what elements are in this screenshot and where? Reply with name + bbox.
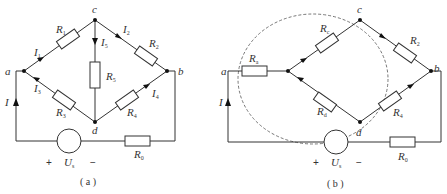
node-label-b: b [434, 62, 440, 74]
label-i4: I4 [151, 87, 159, 100]
arrow-i2-icon [115, 33, 122, 39]
arrow-d-b-icon [407, 84, 414, 89]
voltage-source-us [57, 129, 81, 153]
resistor-ra [242, 66, 267, 76]
node-label-b: b [178, 65, 184, 77]
node-label-a: a [5, 65, 11, 77]
label-rc: Rc [319, 22, 330, 35]
circuit-diagram-b: a c b d Ra Rc Rd R2 R4 R0 I + Us − ( b ) [218, 3, 441, 190]
resistor-rc [315, 33, 338, 53]
label-i: I [218, 96, 224, 108]
label-r3: R3 [55, 106, 66, 119]
label-r2: R2 [148, 37, 159, 50]
node-c [358, 18, 362, 22]
node-d [358, 120, 362, 124]
label-r1: R1 [55, 23, 66, 36]
source-plus-sign: + [313, 157, 319, 168]
label-i1: I1 [33, 46, 41, 59]
label-us: Us [331, 156, 342, 169]
node-c [93, 18, 97, 22]
label-r5: R5 [105, 70, 116, 83]
circuit-diagram-a: a c b d R1 R2 R3 R4 R5 R0 I1 I2 I5 I3 I4… [4, 3, 184, 188]
voltage-source-us [324, 130, 348, 154]
label-r0: R0 [133, 148, 144, 161]
node-label-a: a [221, 65, 227, 77]
node-b [165, 69, 169, 73]
resistor-r0 [125, 136, 150, 146]
resistor-r5 [90, 62, 100, 88]
label-r4: R4 [126, 106, 137, 119]
label-r4: R4 [392, 106, 403, 119]
label-i5: I5 [100, 36, 108, 49]
label-r0: R0 [397, 150, 408, 163]
source-minus-sign: − [356, 157, 362, 168]
arrow-i5-icon [92, 38, 98, 45]
arrow-i-icon [13, 98, 19, 106]
node-a [22, 69, 26, 73]
caption-a: ( a ) [80, 176, 96, 188]
node-b [429, 69, 433, 73]
label-ra: Ra [248, 52, 259, 65]
node-label-c: c [357, 3, 362, 15]
arrow-i-icon [225, 98, 231, 106]
wire-c-b [360, 20, 431, 71]
node-center [286, 69, 290, 73]
label-i3: I3 [33, 82, 41, 95]
arrow-i4-icon [143, 84, 150, 89]
label-i2: I2 [122, 23, 130, 36]
label-r2: R2 [409, 34, 420, 47]
label-us: Us [64, 156, 75, 169]
caption-b: ( b ) [327, 178, 344, 190]
node-label-d: d [92, 124, 98, 136]
source-minus-sign: − [90, 157, 96, 168]
source-plus-sign: + [46, 157, 52, 168]
node-label-d: d [356, 126, 362, 138]
resistor-r0 [390, 137, 415, 147]
label-i: I [4, 96, 10, 108]
node-label-c: c [92, 3, 97, 15]
dashed-wye-boundary [238, 14, 388, 144]
